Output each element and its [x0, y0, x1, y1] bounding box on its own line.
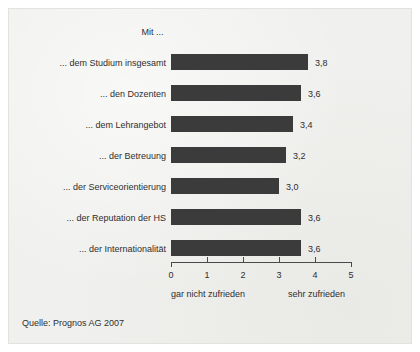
bar-label: ... der Betreuung [16, 151, 166, 161]
x-tick-label: 3 [269, 270, 289, 280]
x-tick-label: 1 [197, 270, 217, 280]
bar-row [171, 178, 279, 194]
source-note: Quelle: Prognos AG 2007 [22, 318, 124, 328]
bar-label: ... dem Lehrangebot [16, 120, 166, 130]
bar-value: 3,6 [308, 213, 321, 223]
bar-row [171, 209, 301, 225]
bar-value: 3,0 [286, 182, 299, 192]
bar-value: 3,2 [293, 151, 306, 161]
bar-row [171, 147, 286, 163]
bar-row [171, 54, 308, 70]
x-axis-endcap-right [351, 262, 352, 267]
bar-row [171, 240, 301, 256]
bar-label: ... dem Studium insgesamt [16, 58, 166, 68]
chart-figure: Mit ... ... dem Studium insgesamt 3,8 ..… [0, 0, 420, 352]
x-axis-tick [243, 257, 244, 262]
bar-label: ... der Internationalität [16, 244, 166, 254]
x-tick-label: 2 [233, 270, 253, 280]
x-axis-tick [315, 257, 316, 262]
scale-anchor-high: sehr zufrieden [288, 289, 345, 299]
bar-label: ... der Reputation der HS [16, 213, 166, 223]
bar-value: 3,4 [300, 120, 313, 130]
x-axis-line [171, 262, 351, 263]
x-tick-label: 0 [161, 270, 181, 280]
bar-value: 3,8 [315, 58, 328, 68]
bar-value: 3,6 [308, 244, 321, 254]
x-axis-endcap-left [171, 262, 172, 267]
x-tick-label: 5 [341, 270, 361, 280]
plot-area: Mit ... ... dem Studium insgesamt 3,8 ..… [0, 0, 420, 352]
x-axis-tick [207, 257, 208, 262]
bar-row [171, 85, 301, 101]
scale-anchor-low: gar nicht zufrieden [171, 289, 245, 299]
x-tick-label: 4 [305, 270, 325, 280]
chart-title: Mit ... [0, 28, 305, 37]
x-axis-tick [279, 257, 280, 262]
bar-value: 3,6 [308, 89, 321, 99]
bar-label: ... den Dozenten [16, 89, 166, 99]
bar-row [171, 116, 293, 132]
bar-label: ... der Serviceorientierung [16, 182, 166, 192]
